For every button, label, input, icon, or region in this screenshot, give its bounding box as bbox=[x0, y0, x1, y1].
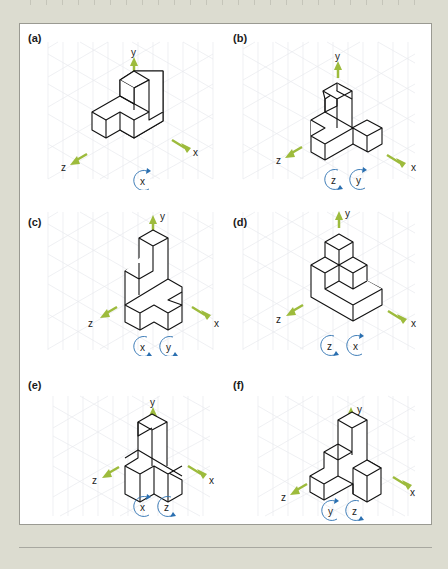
divider-line bbox=[19, 547, 432, 548]
rotation-label: x bbox=[140, 342, 145, 353]
x-axis-label: x bbox=[410, 487, 415, 498]
panel-d: y x z z x (d) bbox=[225, 190, 430, 356]
rotation-label: z bbox=[352, 506, 357, 517]
panel-label: (b) bbox=[233, 32, 247, 44]
x-axis-label: x bbox=[193, 147, 198, 158]
panel-b: y x z z y bbox=[225, 24, 430, 190]
rotation-label: z bbox=[331, 175, 336, 186]
rotation-label: x bbox=[140, 502, 145, 513]
panel-e: y x z x z ( bbox=[20, 356, 225, 522]
panel-e-drawing: y x z x z bbox=[20, 356, 225, 522]
z-axis-label: z bbox=[92, 475, 97, 486]
z-axis-label: z bbox=[276, 155, 281, 166]
panel-c: y x z x y bbox=[20, 190, 225, 356]
rotation-label: y bbox=[356, 175, 361, 186]
panel-f-drawing: y x z y z bbox=[225, 356, 430, 522]
rotation-label: z bbox=[164, 502, 169, 513]
x-axis-label: x bbox=[214, 318, 219, 329]
block-shape bbox=[125, 230, 182, 330]
z-axis-label: z bbox=[88, 318, 93, 329]
rotation-z: z bbox=[346, 500, 364, 521]
rotation-y: y bbox=[160, 336, 178, 356]
rotation-z: z bbox=[321, 335, 339, 356]
cropped-caption-text bbox=[24, 0, 424, 5]
z-axis-label: z bbox=[61, 162, 66, 173]
block-shape bbox=[92, 71, 163, 138]
panel-label: (a) bbox=[28, 32, 41, 44]
panel-a-drawing: y x z x bbox=[20, 24, 225, 190]
block-shape bbox=[310, 412, 381, 502]
x-axis-label: x bbox=[411, 162, 416, 173]
rotation-z: z bbox=[325, 169, 343, 190]
rotation-label: y bbox=[328, 506, 333, 517]
panel-f: y x z y z bbox=[225, 356, 430, 522]
figure-frame: y x z x (a) bbox=[19, 23, 432, 525]
panel-c-drawing: y x z x y bbox=[20, 190, 225, 356]
panel-label: (d) bbox=[233, 216, 247, 228]
rotation-label: y bbox=[166, 342, 171, 353]
z-axis-label: z bbox=[276, 314, 281, 325]
block-shape bbox=[311, 234, 382, 321]
panel-label: (f) bbox=[233, 379, 244, 391]
rotation-label: z bbox=[327, 341, 332, 352]
rotation-label: x bbox=[353, 341, 358, 352]
y-axis-label: y bbox=[345, 208, 350, 219]
rotation-y: y bbox=[322, 498, 339, 520]
panel-d-drawing: y x z z x bbox=[225, 190, 430, 356]
panel-label: (c) bbox=[28, 216, 41, 228]
y-axis-label: y bbox=[335, 51, 340, 62]
block-shape bbox=[311, 83, 382, 160]
z-axis-label: z bbox=[281, 492, 286, 503]
x-axis-label: x bbox=[411, 318, 416, 329]
panel-label: (e) bbox=[28, 379, 41, 391]
rotation-x: x bbox=[134, 168, 151, 190]
y-axis-label: y bbox=[160, 211, 165, 222]
panel-a: y x z x (a) bbox=[20, 24, 225, 190]
rotation-y: y bbox=[350, 167, 367, 189]
y-axis-label: y bbox=[131, 47, 136, 58]
y-axis-label: y bbox=[357, 404, 362, 415]
rotation-label: x bbox=[140, 176, 145, 187]
y-axis-label: y bbox=[150, 397, 155, 408]
x-axis-label: x bbox=[209, 475, 214, 486]
panel-b-drawing: y x z z y bbox=[225, 24, 430, 190]
